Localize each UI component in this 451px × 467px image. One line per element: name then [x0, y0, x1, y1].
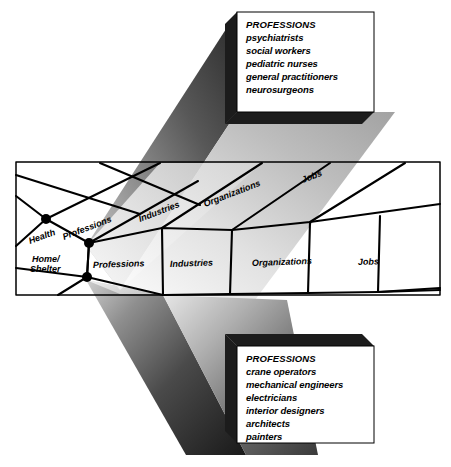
node-home-shelter — [82, 272, 92, 282]
callout-box-top: PROFESSIONS psychiatrists social workers… — [225, 12, 374, 124]
callout-top-left-face — [225, 12, 237, 124]
cell-organizations-lower: Organizations — [252, 256, 312, 268]
node-health — [41, 214, 51, 224]
callout-bottom-top-face — [225, 334, 374, 346]
callout-top-item-2: pediatric nurses — [245, 58, 318, 69]
callout-bottom-left-face — [225, 334, 237, 443]
callout-top-item-4: neurosurgeons — [246, 84, 314, 95]
callout-bottom-heading: PROFESSIONS — [246, 353, 316, 364]
callout-top-bottom-face — [225, 112, 374, 124]
callout-bottom-item-1: mechanical engineers — [246, 379, 343, 390]
diagram-svg: Health Home/ Shelter Professions Industr… — [0, 0, 451, 467]
callout-bottom-item-4: architects — [246, 418, 290, 429]
callout-bottom-item-3: interior designers — [246, 405, 324, 416]
diagram-canvas: Health Home/ Shelter Professions Industr… — [0, 0, 451, 467]
cell-professions-lower: Professions — [93, 258, 145, 270]
callout-box-bottom: PROFESSIONS crane operators mechanical e… — [225, 334, 374, 443]
callout-top-item-0: psychiatrists — [245, 32, 303, 43]
grid-line-lower-sep-2 — [162, 228, 163, 295]
cell-industries-lower: Industries — [170, 258, 213, 269]
cell-jobs-lower: Jobs — [358, 256, 379, 267]
callout-top-item-1: social workers — [246, 45, 311, 56]
callout-top-item-3: general practitioners — [245, 71, 338, 82]
callout-bottom-item-0: crane operators — [246, 366, 316, 377]
callout-top-heading: PROFESSIONS — [246, 19, 316, 30]
node-junction — [84, 238, 94, 248]
label-home-shelter-line2: Shelter — [30, 264, 61, 274]
callout-bottom-item-5: painters — [245, 431, 282, 442]
label-home-shelter-line1: Home/ — [32, 254, 61, 264]
callout-bottom-item-2: electricians — [246, 392, 297, 403]
